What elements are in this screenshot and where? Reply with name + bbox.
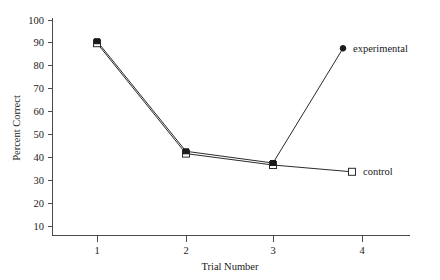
data-point-marker (349, 168, 356, 175)
y-axis-ticks (48, 20, 53, 226)
y-tick-label: 20 (34, 198, 45, 209)
y-tick-label: 40 (34, 152, 45, 163)
y-tick-label: 100 (28, 15, 44, 26)
data-point-marker (184, 149, 189, 154)
series-line-control (97, 43, 352, 172)
y-tick-label: 80 (34, 60, 45, 71)
y-tick-label: 90 (34, 37, 45, 48)
series-line-experimental (97, 41, 343, 163)
x-axis-ticks (97, 236, 362, 242)
data-point-marker (271, 161, 276, 166)
x-tick-label: 4 (359, 245, 365, 256)
line-chart: 100 90 80 70 60 50 40 30 20 10 1 2 3 4 T… (0, 0, 440, 280)
series-markers-experimental (95, 39, 346, 166)
chart-container: 100 90 80 70 60 50 40 30 20 10 1 2 3 4 T… (0, 0, 440, 280)
series-label-control: control (363, 166, 393, 177)
x-tick-label: 2 (183, 245, 188, 256)
x-tick-label: 1 (94, 245, 99, 256)
series-markers-control (94, 40, 356, 176)
y-axis-tick-labels: 100 90 80 70 60 50 40 30 20 10 (28, 15, 44, 232)
data-point-marker (340, 46, 346, 52)
series-label-experimental: experimental (353, 43, 408, 54)
data-point-marker (95, 39, 100, 44)
x-tick-label: 3 (270, 245, 275, 256)
y-tick-label: 70 (34, 83, 45, 94)
x-axis-title: Trial Number (201, 261, 259, 272)
y-tick-label: 10 (34, 221, 45, 232)
y-tick-label: 60 (34, 106, 45, 117)
x-axis-tick-labels: 1 2 3 4 (94, 245, 365, 256)
y-axis-title: Percent Correct (11, 95, 22, 161)
y-tick-label: 30 (34, 175, 45, 186)
y-tick-label: 50 (34, 129, 45, 140)
